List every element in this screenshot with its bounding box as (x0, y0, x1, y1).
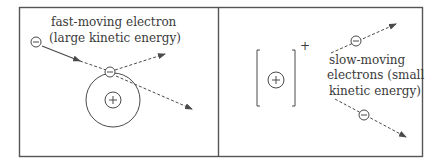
diagram-frame (20, 8, 423, 157)
nucleus-plus-icon (105, 92, 121, 108)
ionization-diagram: fast-moving electron (large kinetic ener… (0, 0, 434, 164)
ion-charge-label: + (300, 39, 310, 53)
slow-electrons-label-line2: electrons (small (327, 68, 424, 82)
ion-nucleus-plus-icon (268, 72, 284, 88)
left-panel: fast-moving electron (large kinetic ener… (31, 15, 192, 127)
collision-path-dashed (80, 61, 106, 70)
slow-electron-upper-path-arrow (331, 24, 396, 53)
ejected-path-upper-arrow (115, 54, 165, 70)
fast-electron-path-arrow (42, 46, 80, 61)
scattered-path-lower-arrow (116, 76, 192, 109)
fast-electron-label-line1: fast-moving electron (51, 15, 177, 29)
bound-electron-icon (105, 67, 115, 77)
incoming-electron-icon (31, 37, 41, 47)
fast-electron-label-line2: (large kinetic energy) (49, 31, 181, 45)
slow-electron-upper-icon (351, 36, 361, 46)
ion-right-bracket (292, 50, 295, 106)
slow-electron-lower-icon (359, 110, 369, 120)
slow-electrons-label-line1: slow-moving (329, 53, 405, 67)
ion-left-bracket (257, 50, 260, 106)
slow-electrons-label-line3: kinetic energy) (329, 84, 421, 98)
right-panel: + slow-moving electrons (small kinetic e… (257, 24, 424, 137)
slow-electron-lower-path-arrow (335, 99, 406, 137)
